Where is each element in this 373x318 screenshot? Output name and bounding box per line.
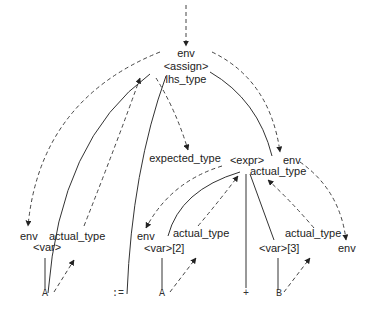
- flow-A-actual-type2: [170, 258, 196, 292]
- var2-env-label: env: [137, 230, 155, 242]
- var3-env-label: env: [338, 242, 356, 254]
- var1-node-label: <var>: [33, 241, 61, 253]
- edge-assign-var1: [48, 74, 150, 293]
- root-lhs-type-label: lhs_type: [166, 73, 207, 85]
- var3-node-label: <var>[3]: [259, 242, 299, 254]
- lhs-type-to-expected-type: [156, 78, 188, 150]
- env-flow-assign-var1: [28, 52, 160, 226]
- terminal-assign-op: :=: [112, 288, 124, 299]
- actual-type-flow-var1-assign: [84, 78, 140, 226]
- expr-actual-type-label: actual_type: [250, 165, 306, 177]
- edge-assign-assignop: [127, 76, 166, 294]
- actual-type-flow-var3-expr: [268, 180, 314, 228]
- attribute-tree-diagram: env <assign> lhs_type expected_type <exp…: [0, 0, 373, 318]
- edge-expr-var3: [250, 174, 274, 240]
- expected-type-label: expected_type: [149, 152, 221, 164]
- terminal-B: B: [276, 288, 282, 299]
- env-flow-expr-var2: [146, 166, 222, 228]
- root-env-label: env: [177, 47, 195, 59]
- var3-actual-type-label: actual_type: [285, 227, 341, 239]
- terminal-A-1: A: [42, 288, 48, 299]
- diagram-canvas: env <assign> lhs_type expected_type <exp…: [0, 0, 373, 318]
- flow-A-actual-type1: [54, 260, 74, 292]
- root-assign-label: <assign>: [164, 60, 209, 72]
- terminal-plus: +: [243, 288, 249, 299]
- actual-type-flow-var2-expr: [198, 176, 238, 226]
- var2-node-label: <var>[2]: [144, 242, 184, 254]
- flow-B-actual-type3: [284, 258, 310, 292]
- edge-assign-expr: [210, 72, 272, 156]
- terminal-A-2: A: [159, 288, 165, 299]
- var2-actual-type-label: actual_type: [173, 227, 229, 239]
